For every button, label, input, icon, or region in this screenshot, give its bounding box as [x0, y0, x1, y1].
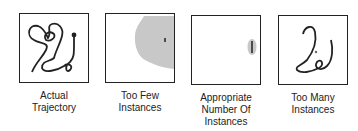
- panel-too-few: Too Few Instances: [105, 13, 175, 114]
- region-icon: [106, 14, 174, 82]
- panel-label: Appropriate Number Of Instances: [191, 92, 261, 128]
- panel-label: Too Many Instances: [278, 92, 348, 116]
- trajectory-icon: [20, 14, 88, 82]
- too-few-box: [105, 13, 175, 83]
- label-line: Too Few: [105, 90, 175, 102]
- appropriate-box: [191, 15, 261, 85]
- too-many-box: [278, 15, 348, 85]
- panel-appropriate: Appropriate Number Of Instances: [191, 15, 261, 128]
- label-line: Instances: [191, 116, 261, 128]
- label-line: Actual: [19, 90, 89, 102]
- label-line: Instances: [278, 104, 348, 116]
- label-line: Number Of: [191, 104, 261, 116]
- panel-actual-trajectory: Actual Trajectory: [19, 13, 89, 114]
- ellipse-icon: [192, 16, 260, 84]
- panel-too-many: Too Many Instances: [278, 15, 348, 116]
- panel-label: Too Few Instances: [105, 90, 175, 114]
- label-line: Too Many: [278, 92, 348, 104]
- label-line: Trajectory: [19, 102, 89, 114]
- actual-trajectory-box: [19, 13, 89, 83]
- label-line: Appropriate: [191, 92, 261, 104]
- label-line: Instances: [105, 102, 175, 114]
- overfit-curve-icon: [279, 16, 347, 84]
- panel-label: Actual Trajectory: [19, 90, 89, 114]
